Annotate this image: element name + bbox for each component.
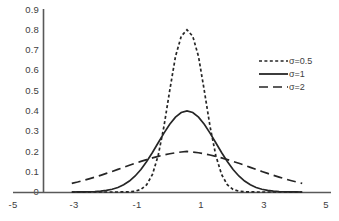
plot-area [0,0,339,221]
legend-line-sample-dotted [259,56,288,66]
legend-line-sample-solid [259,69,288,79]
legend-line-sample-dashed [259,82,288,92]
legend-label-sigma-2: σ=2 [289,82,305,92]
legend-label-sigma-1: σ=1 [289,69,305,79]
curve-sigma-2 [72,151,302,183]
legend-item-sigma-1: σ=1 [259,67,335,80]
legend-item-sigma-0.5: σ=0.5 [259,54,335,67]
legend-item-sigma-2: σ=2 [259,80,335,93]
legend: σ=0.5 σ=1 σ=2 [259,54,335,93]
normal-distribution-chart: 0.9 0.8 0.7 0.6 0.5 0.4 0.3 0.2 0.1 0 -5… [0,0,339,221]
legend-label-sigma-0.5: σ=0.5 [289,56,312,66]
